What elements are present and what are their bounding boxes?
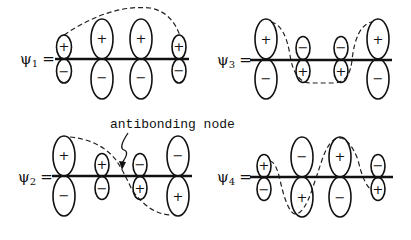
psi3-wavefunction-curve — [271, 22, 372, 83]
psi2-sign: + — [59, 148, 70, 163]
psi1-sign: + — [97, 31, 108, 46]
psi3-sign: + — [373, 32, 384, 47]
psi4-sign: + — [297, 190, 308, 205]
psi2-sign: − — [135, 157, 146, 172]
psi4-sign: − — [297, 149, 308, 164]
psi1-sign: − — [136, 70, 147, 85]
psi1-sign: + — [136, 31, 147, 46]
psi4-diagram: ψ4= + − − + + − − + — [217, 137, 393, 217]
psi3-sign: + — [336, 64, 347, 79]
psi4-sign: + — [335, 149, 346, 164]
psi3-sign: − — [373, 71, 384, 86]
psi2-sign: + — [173, 189, 184, 204]
psi4-sign: − — [335, 190, 346, 205]
psi2-sign: − — [97, 181, 108, 196]
psi3-sign: + — [298, 64, 309, 79]
psi2-diagram: antibonding node ψ2= + − + − − + − + — [18, 117, 235, 216]
psi3-label: ψ3= — [217, 51, 252, 70]
psi2-sign: + — [135, 181, 146, 196]
psi1-sign: + — [59, 39, 70, 54]
psi1-wavefunction-curve — [64, 8, 180, 36]
psi1-sign: − — [59, 64, 70, 79]
psi3-sign: − — [298, 40, 309, 55]
psi3-sign: − — [336, 40, 347, 55]
psi2-sign: + — [97, 157, 108, 172]
psi1-sign: − — [174, 63, 185, 78]
mo-diagram: ψ1= + − + − + − + − ψ3= + − — [0, 0, 411, 240]
psi1-diagram: ψ1= + − + − + − + − — [20, 8, 189, 99]
psi4-sign: − — [373, 158, 384, 173]
psi2-sign: − — [59, 188, 70, 203]
psi4-label: ψ4= — [217, 168, 252, 187]
psi2-sign: − — [173, 148, 184, 163]
psi4-sign: − — [259, 182, 270, 197]
psi4-sign: + — [373, 182, 384, 197]
psi3-sign: − — [261, 71, 272, 86]
psi1-sign: + — [174, 39, 185, 54]
antibonding-node-label: antibonding node — [110, 117, 235, 132]
psi3-sign: + — [261, 32, 272, 47]
psi2-label: ψ2= — [18, 168, 53, 187]
node-arrow-icon — [122, 133, 128, 163]
psi1-label: ψ1= — [20, 50, 55, 69]
psi3-diagram: ψ3= + − − + − + + − — [217, 19, 392, 99]
psi1-sign: − — [97, 70, 108, 85]
psi4-sign: + — [259, 158, 270, 173]
